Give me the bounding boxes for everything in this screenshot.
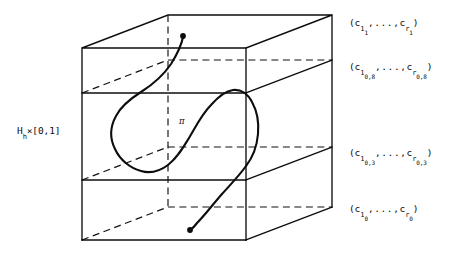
label-level-1-open: (c — [349, 17, 360, 28]
label-level-0-3-open: (c — [349, 147, 360, 158]
label-level-1-first-sub: 11 — [360, 25, 368, 33]
label-level-0-3-second-subsub: 0,3 — [416, 159, 427, 166]
label-level-0-8: (c10,8,...,cr0,8) — [349, 62, 432, 73]
label-base-space-interval: ×[0,1] — [27, 125, 61, 136]
slice-line-0_8-right — [246, 60, 332, 93]
back-edge-level-0_8 — [82, 60, 332, 93]
label-level-0-8-first-subsub: 0,8 — [364, 73, 375, 80]
label-level-0-first-subsub: 0 — [364, 215, 368, 222]
cube-diagram — [0, 0, 470, 259]
label-level-0-8-close: ) — [427, 61, 433, 72]
right-face-bottom-diagonal — [246, 207, 332, 240]
label-base-space: Hh×[0,1] — [17, 126, 60, 136]
label-level-1-second-sub: r1 — [405, 25, 413, 33]
slice-line-0_3-right — [246, 147, 332, 180]
label-base-space-sub: h — [23, 133, 27, 141]
path-endpoint-top-dot — [180, 33, 186, 39]
label-level-0-8-second-sub: r0,8 — [412, 69, 427, 77]
label-level-0-8-first-sub: 10,8 — [360, 69, 375, 77]
label-level-0-3-close: ) — [427, 147, 433, 158]
label-level-0-3-dots: ,..., — [375, 147, 407, 158]
label-level-0-second-sub: r0 — [405, 211, 413, 219]
label-level-0-3: (c10,3,...,cr0,3) — [349, 148, 432, 159]
path-endpoint-bottom-dot — [187, 227, 193, 233]
visible-edges-group — [82, 15, 332, 240]
hidden-edges-group — [82, 15, 332, 240]
label-level-0-3-first-sub: 10,3 — [360, 155, 375, 163]
back-edge-level-0_3 — [82, 147, 332, 180]
path-curve — [111, 37, 258, 230]
label-level-1-close: ) — [413, 17, 419, 28]
label-level-0-3-first-subsub: 0,3 — [364, 159, 375, 166]
label-level-0: (c10,...,cr0) — [349, 204, 418, 215]
label-level-0-8-second-subsub: 0,8 — [416, 73, 427, 80]
path-curve-group — [111, 33, 258, 233]
label-level-1-second-subsub: 1 — [409, 29, 413, 36]
label-base-space-H: H — [17, 125, 23, 136]
label-level-0-dots: ,..., — [368, 203, 400, 214]
label-level-0-first-sub: 10 — [360, 211, 368, 219]
label-level-0-8-open: (c — [349, 61, 360, 72]
figure-canvas: Hh×[0,1] π (c11,...,cr1) (c10,8,...,cr0,… — [0, 0, 470, 259]
label-level-0-open: (c — [349, 203, 360, 214]
label-level-1-first-subsub: 1 — [364, 29, 368, 36]
label-level-1-dots: ,..., — [368, 17, 400, 28]
label-level-0-close: ) — [413, 203, 419, 214]
label-level-0-second-subsub: 0 — [409, 215, 413, 222]
label-level-1: (c11,...,cr1) — [349, 18, 418, 29]
top-face-edges — [82, 15, 332, 48]
label-pi: π — [179, 117, 185, 126]
label-level-0-3-second-sub: r0,3 — [412, 155, 427, 163]
label-level-0-8-dots: ,..., — [375, 61, 407, 72]
